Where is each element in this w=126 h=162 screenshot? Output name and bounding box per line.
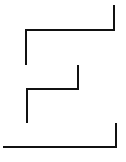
line-drawing [0, 0, 126, 162]
bottom-bracket-line [4, 124, 116, 147]
middle-step-line [27, 66, 78, 122]
upper-step-line [26, 6, 114, 64]
